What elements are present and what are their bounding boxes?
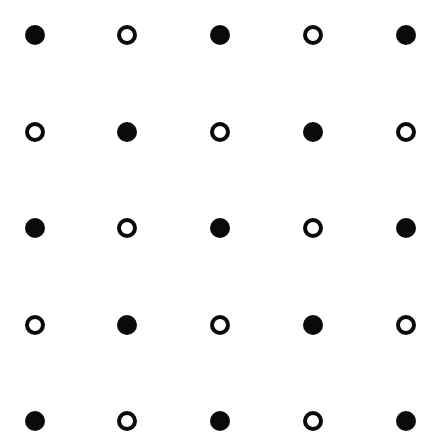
filled-dot-icon xyxy=(396,218,416,238)
filled-dot-icon xyxy=(210,25,230,45)
hollow-dot-icon xyxy=(210,122,230,142)
hollow-dot-icon xyxy=(25,122,45,142)
hollow-dot-icon xyxy=(396,122,416,142)
filled-dot-icon xyxy=(25,25,45,45)
filled-dot-icon xyxy=(210,218,230,238)
filled-dot-icon xyxy=(303,122,323,142)
hollow-dot-icon xyxy=(117,218,137,238)
filled-dot-icon xyxy=(396,25,416,45)
hollow-dot-icon xyxy=(117,25,137,45)
filled-dot-icon xyxy=(303,315,323,335)
hollow-dot-icon xyxy=(303,411,323,431)
filled-dot-icon xyxy=(25,411,45,431)
filled-dot-icon xyxy=(210,411,230,431)
hollow-dot-icon xyxy=(117,411,137,431)
hollow-dot-icon xyxy=(25,315,45,335)
filled-dot-icon xyxy=(25,218,45,238)
hollow-dot-icon xyxy=(303,25,323,45)
dot-grid xyxy=(0,0,444,446)
filled-dot-icon xyxy=(117,315,137,335)
hollow-dot-icon xyxy=(210,315,230,335)
filled-dot-icon xyxy=(117,122,137,142)
hollow-dot-icon xyxy=(396,315,416,335)
hollow-dot-icon xyxy=(303,218,323,238)
filled-dot-icon xyxy=(396,411,416,431)
